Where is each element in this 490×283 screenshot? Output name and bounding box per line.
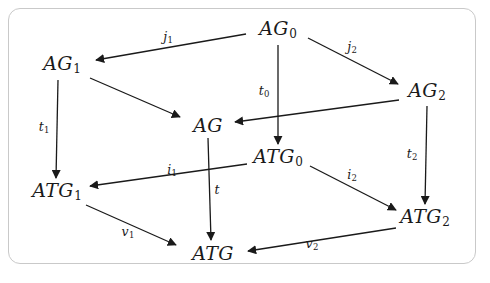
edge-label-t0: t0 xyxy=(259,85,270,99)
diagram-edges-canvas xyxy=(0,0,490,283)
node-label-AG: AG xyxy=(193,116,223,135)
edge-arrow-t1 xyxy=(56,80,58,178)
edge-base-v1: v xyxy=(122,224,129,239)
node-label-AG1: AG1 xyxy=(43,54,81,75)
node-base-ATG: ATG xyxy=(192,242,233,264)
node-base-ATG2: ATG xyxy=(400,205,441,227)
node-subscript-AG2: 2 xyxy=(438,90,446,104)
edge-label-j2: j2 xyxy=(347,41,357,55)
edge-label-i2: i2 xyxy=(347,169,357,183)
edge-label-i1: i1 xyxy=(167,164,177,178)
edge-label-v1: v1 xyxy=(122,226,135,240)
edge-label-t: t xyxy=(214,184,219,197)
node-subscript-AG1: 1 xyxy=(73,63,81,77)
node-base-ATG0: ATG xyxy=(253,145,294,167)
node-subscript-ATG1: 1 xyxy=(74,190,82,204)
edge-subscript-i2: 2 xyxy=(351,173,356,183)
node-subscript-ATG0: 0 xyxy=(295,156,303,170)
edge-subscript-v1: 1 xyxy=(129,230,134,240)
node-base-AG: AG xyxy=(193,114,223,136)
node-label-AG2: AG2 xyxy=(408,81,446,102)
node-label-ATG0: ATG0 xyxy=(253,147,303,168)
node-base-AG1: AG xyxy=(43,52,73,74)
edge-label-t2: t2 xyxy=(407,148,418,162)
edge-subscript-v2: 2 xyxy=(313,242,318,252)
edge-line-group xyxy=(56,34,427,251)
edge-base-t: t xyxy=(214,182,219,197)
edge-subscript-t1: 1 xyxy=(44,125,49,135)
node-label-AG0: AG0 xyxy=(259,19,297,40)
node-subscript-AG0: 0 xyxy=(289,28,297,42)
node-base-ATG1: ATG xyxy=(32,179,73,201)
edge-label-j1: j1 xyxy=(163,31,173,45)
edge-label-v2: v2 xyxy=(306,238,319,252)
edge-subscript-j2: 2 xyxy=(351,45,356,55)
node-base-AG2: AG xyxy=(408,79,438,101)
edge-arrow-t2 xyxy=(425,106,427,204)
node-base-AG0: AG xyxy=(259,17,289,39)
edge-subscript-t0: 0 xyxy=(264,89,269,99)
edge-label-t1: t1 xyxy=(39,121,50,135)
edge-arrow-t xyxy=(208,138,211,240)
edge-arrow-e_ag1_ag xyxy=(90,78,180,117)
figure-root: AG0AG1AG2AGATG0ATG1ATG2ATG j1j2t0t1t2ti1… xyxy=(0,0,490,283)
edge-subscript-i1: 1 xyxy=(171,168,176,178)
edge-base-v2: v xyxy=(306,236,313,251)
edge-subscript-j1: 1 xyxy=(167,35,172,45)
node-label-ATG2: ATG2 xyxy=(400,207,450,228)
node-label-ATG: ATG xyxy=(192,244,233,263)
node-label-ATG1: ATG1 xyxy=(32,181,82,202)
edge-arrow-e_ag2_ag xyxy=(235,100,399,122)
node-subscript-ATG2: 2 xyxy=(442,216,450,230)
edge-subscript-t2: 2 xyxy=(412,152,417,162)
edge-arrow-v2 xyxy=(248,228,396,251)
